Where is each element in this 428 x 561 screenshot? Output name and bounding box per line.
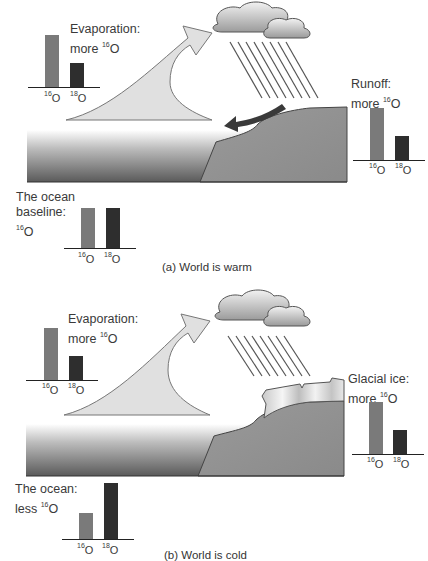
bar-18O xyxy=(70,63,84,87)
rain-icon xyxy=(230,42,318,98)
ocean-baseline-bar-chart: 16O 18O xyxy=(64,208,136,248)
glacial-ice-title: Glacial ice: xyxy=(348,372,409,387)
bar-18O xyxy=(69,356,83,380)
cloud-icon xyxy=(215,290,310,326)
evaporation-bar-chart: 16O 18O xyxy=(26,328,98,380)
bar-16O xyxy=(370,108,384,160)
bar-16O xyxy=(44,328,58,380)
tick-18O: 18O xyxy=(395,162,411,176)
bar-18O xyxy=(395,136,409,160)
tick-18O: 18O xyxy=(70,90,86,104)
evaporation-title: Evaporation: xyxy=(68,312,138,327)
tick-18O: 18O xyxy=(104,251,120,265)
tick-16O: 16O xyxy=(367,456,383,470)
evaporation-bar-chart: 16O 18O xyxy=(28,30,100,87)
bar-18O xyxy=(106,208,120,248)
axis-line xyxy=(62,539,134,541)
axis-line xyxy=(352,454,424,456)
ocean-line1: The ocean xyxy=(16,190,75,205)
bar-16O xyxy=(81,208,95,248)
tick-18O: 18O xyxy=(68,382,84,396)
runoff-label: Runoff: more 16O xyxy=(351,77,400,112)
bar-18O xyxy=(104,483,118,539)
bar-16O xyxy=(45,35,59,87)
tick-16O: 16O xyxy=(369,162,385,176)
axis-line xyxy=(64,248,136,250)
caption-a: (a) World is warm xyxy=(162,261,252,273)
caption-b: (b) World is cold xyxy=(164,549,247,561)
cloud-icon xyxy=(213,2,310,38)
runoff-title: Runoff: xyxy=(351,77,400,92)
tick-16O: 16O xyxy=(42,382,58,396)
tick-16O: 16O xyxy=(78,251,94,265)
bar-18O xyxy=(393,430,407,454)
tick-16O: 16O xyxy=(44,90,60,104)
tick-18O: 18O xyxy=(393,456,409,470)
tick-16O: 16O xyxy=(77,542,93,556)
bar-16O xyxy=(369,402,383,454)
bar-16O xyxy=(79,513,93,539)
axis-line xyxy=(26,380,98,382)
axis-line xyxy=(28,87,100,89)
runoff-bar-chart: 16O 18O xyxy=(353,108,425,160)
axis-line xyxy=(353,160,425,162)
glacial-ice-bar-chart: 16O 18O xyxy=(352,402,424,454)
rain-icon xyxy=(228,336,310,376)
land-shape xyxy=(200,107,347,182)
tick-18O: 18O xyxy=(102,542,118,556)
ocean-bar-chart: 16O 18O xyxy=(62,483,134,539)
